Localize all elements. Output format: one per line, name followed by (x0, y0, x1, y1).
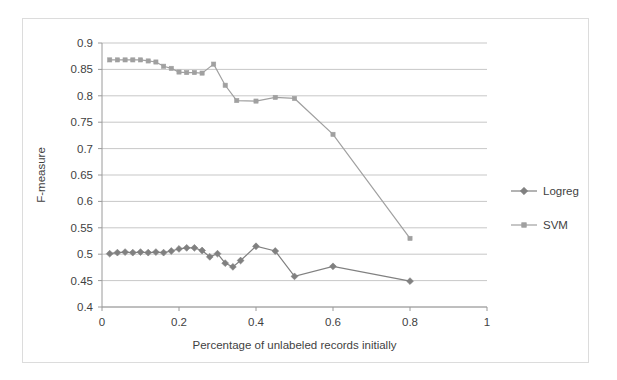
data-point-marker (146, 59, 150, 63)
data-point-marker (145, 249, 152, 256)
y-tick-label: 0.4 (77, 301, 94, 313)
data-point-marker (235, 98, 239, 102)
legend-item-svm[interactable]: SVM (511, 219, 568, 231)
x-tick-label: 1 (484, 316, 490, 328)
data-point-marker (212, 62, 216, 66)
y-tick-label: 0.8 (77, 90, 93, 102)
data-point-marker (192, 70, 196, 74)
series-logreg (106, 243, 413, 285)
y-tick-label: 0.45 (71, 275, 93, 287)
axes (98, 43, 487, 311)
y-tick-label: 0.85 (71, 63, 93, 75)
data-point-marker (114, 249, 121, 256)
data-point-marker (123, 58, 127, 62)
chart-figure: 0.40.450.50.550.60.650.70.750.80.850.9 0… (22, 18, 589, 363)
y-axis-title: F-measure (35, 147, 47, 203)
data-point-marker (407, 278, 414, 285)
data-point-marker (154, 60, 158, 64)
legend-label: Logreg (543, 185, 579, 197)
x-tick-label: 0.4 (248, 316, 265, 328)
data-point-marker (160, 249, 167, 256)
chart-legend: LogregSVM (511, 185, 579, 231)
data-point-marker (177, 70, 181, 74)
legend-item-logreg[interactable]: Logreg (511, 185, 579, 197)
data-point-marker (169, 66, 173, 70)
y-tick-label: 0.7 (77, 143, 93, 155)
diamond-marker-icon (520, 187, 527, 194)
data-point-marker (254, 99, 258, 103)
data-series (106, 58, 413, 285)
data-point-marker (106, 250, 113, 257)
data-point-marker (168, 248, 175, 255)
data-point-marker (408, 236, 412, 240)
data-point-marker (200, 71, 204, 75)
data-point-marker (185, 70, 189, 74)
y-tick-label: 0.65 (71, 169, 93, 181)
x-tick-labels: 00.20.40.60.81 (99, 316, 490, 328)
data-point-marker (273, 95, 277, 99)
data-point-marker (131, 58, 135, 62)
y-tick-labels: 0.40.450.50.550.60.650.70.750.80.850.9 (71, 37, 94, 313)
x-tick-label: 0 (99, 316, 105, 328)
x-tick-label: 0.6 (325, 316, 341, 328)
legend-label: SVM (543, 219, 568, 231)
y-tick-label: 0.55 (71, 222, 93, 234)
data-point-marker (115, 58, 119, 62)
series-svm (108, 58, 413, 241)
data-point-marker (331, 132, 335, 136)
data-point-marker (108, 58, 112, 62)
data-point-marker (162, 64, 166, 68)
x-tick-label: 0.8 (402, 316, 418, 328)
y-tick-label: 0.6 (77, 195, 93, 207)
data-point-marker (138, 58, 142, 62)
y-tick-label: 0.75 (71, 116, 93, 128)
y-tick-label: 0.5 (77, 248, 93, 260)
x-axis-title: Percentage of unlabeled records initiall… (193, 339, 397, 351)
data-point-marker (183, 244, 190, 251)
data-point-marker (176, 245, 183, 252)
square-marker-icon (522, 223, 527, 228)
data-point-marker (330, 263, 337, 270)
y-tick-label: 0.9 (77, 37, 93, 49)
gridlines (102, 43, 487, 307)
f-measure-line-chart: 0.40.450.50.550.60.650.70.750.80.850.9 0… (23, 19, 588, 362)
data-point-marker (191, 244, 198, 251)
data-point-marker (129, 249, 136, 256)
data-point-marker (292, 96, 296, 100)
x-tick-label: 0.2 (171, 316, 187, 328)
data-point-marker (223, 83, 227, 87)
